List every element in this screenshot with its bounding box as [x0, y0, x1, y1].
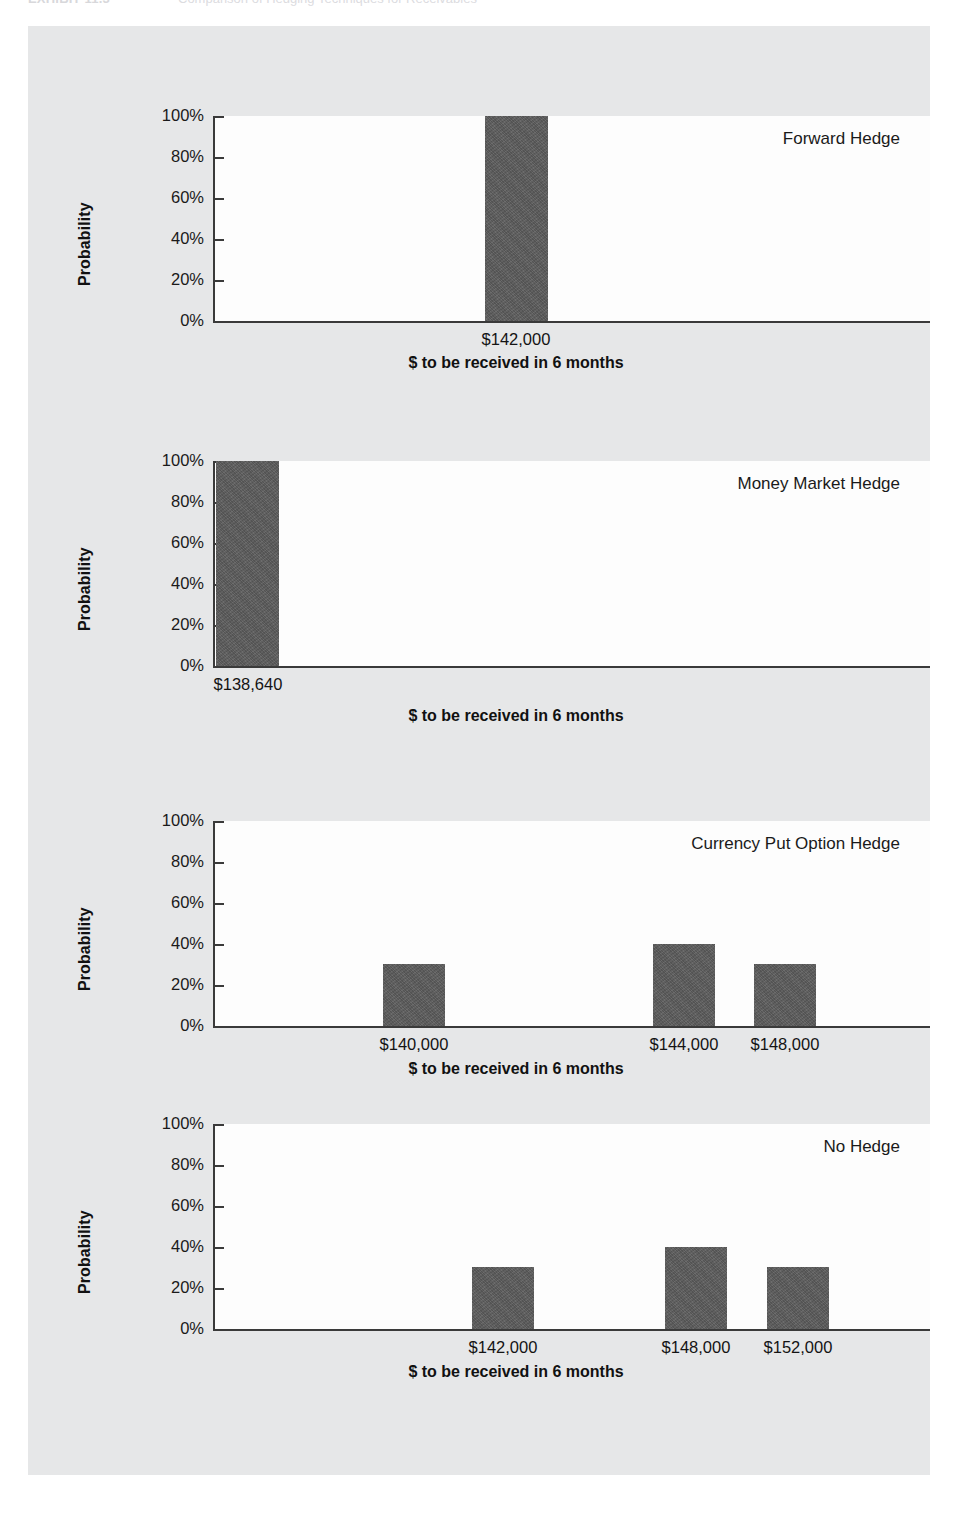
y-tick-label: 100%: [108, 451, 204, 470]
x-axis-line: [213, 1329, 930, 1331]
y-tick-label: 60%: [108, 188, 204, 207]
x-axis-title: $ to be received in 6 months: [366, 1363, 666, 1381]
y-axis-line: [213, 1124, 215, 1331]
y-tick: [215, 321, 224, 323]
y-axis-title: Probability: [76, 202, 94, 286]
y-tick-label: 60%: [108, 893, 204, 912]
y-tick: [215, 280, 224, 282]
y-axis-line: [213, 116, 215, 323]
y-tick: [215, 862, 224, 864]
y-tick-label: 0%: [108, 656, 204, 675]
y-axis-title: Probability: [76, 1210, 94, 1294]
y-tick-label: 0%: [108, 311, 204, 330]
y-tick: [215, 985, 224, 987]
y-tick-label: 40%: [108, 574, 204, 593]
y-tick-label: 0%: [108, 1016, 204, 1035]
y-tick: [215, 1124, 224, 1126]
y-tick-label: 60%: [108, 1196, 204, 1215]
cut-off-header-strip: EXHIBIT 11.3 Comparison of Hedging Techn…: [0, 0, 959, 14]
chart-title: Money Market Hedge: [480, 474, 900, 494]
x-axis-line: [213, 321, 930, 323]
chart-money-market-hedge: 100% 80% 60% 40% 20% 0% Probability Mone…: [28, 441, 930, 741]
y-tick-label: 20%: [108, 975, 204, 994]
y-tick-label: 100%: [108, 811, 204, 830]
chart-currency-put-option-hedge: 100% 80% 60% 40% 20% 0% Probability Curr…: [28, 801, 930, 1101]
chart-title: Currency Put Option Hedge: [480, 834, 900, 854]
x-tick-label: $142,000: [446, 330, 586, 349]
x-tick-label: $148,000: [715, 1035, 855, 1054]
x-axis-title: $ to be received in 6 months: [366, 1060, 666, 1078]
y-tick-label: 40%: [108, 1237, 204, 1256]
bar: [216, 461, 279, 666]
y-tick-label: 20%: [108, 1278, 204, 1297]
exhibit-number-cut: EXHIBIT 11.3: [28, 0, 110, 6]
y-tick-label: 80%: [108, 852, 204, 871]
bar: [653, 944, 715, 1026]
y-tick: [215, 1206, 224, 1208]
bar: [665, 1247, 727, 1329]
y-tick: [215, 116, 224, 118]
x-tick-label: $152,000: [728, 1338, 868, 1357]
y-tick: [215, 944, 224, 946]
y-axis-title: Probability: [76, 547, 94, 631]
x-axis-line: [213, 1026, 930, 1028]
x-axis-line: [213, 666, 930, 668]
bar: [383, 964, 445, 1026]
y-tick: [215, 1026, 224, 1028]
x-tick-label: $142,000: [433, 1338, 573, 1357]
y-tick-label: 60%: [108, 533, 204, 552]
y-tick-label: 100%: [108, 106, 204, 125]
y-tick-label: 20%: [108, 615, 204, 634]
chart-title: No Hedge: [480, 1137, 900, 1157]
x-axis-title: $ to be received in 6 months: [366, 707, 666, 725]
bar: [485, 116, 548, 321]
y-tick-label: 80%: [108, 147, 204, 166]
chart-forward-hedge: 100% 80% 60% 40% 20% 0% Probability Forw…: [28, 96, 930, 386]
y-axis-title: Probability: [76, 907, 94, 991]
x-tick-label: $138,640: [178, 675, 318, 694]
bar: [472, 1267, 534, 1329]
y-tick: [215, 1329, 224, 1331]
y-tick: [215, 666, 224, 668]
y-tick: [215, 1165, 224, 1167]
x-tick-label: $140,000: [344, 1035, 484, 1054]
y-tick: [215, 157, 224, 159]
y-tick: [215, 239, 224, 241]
chart-no-hedge: 100% 80% 60% 40% 20% 0% Probability No H…: [28, 1104, 930, 1414]
exhibit-caption-cut: Comparison of Hedging Techniques for Rec…: [178, 0, 477, 6]
y-tick-label: 0%: [108, 1319, 204, 1338]
y-tick: [215, 821, 224, 823]
y-tick: [215, 198, 224, 200]
y-tick: [215, 903, 224, 905]
y-axis-line: [213, 821, 215, 1028]
x-axis-title: $ to be received in 6 months: [366, 354, 666, 372]
y-tick-label: 80%: [108, 1155, 204, 1174]
y-axis-line: [213, 461, 215, 668]
y-tick-label: 40%: [108, 229, 204, 248]
y-tick: [215, 1247, 224, 1249]
exhibit-panel: 100% 80% 60% 40% 20% 0% Probability Forw…: [28, 26, 930, 1475]
bar: [767, 1267, 829, 1329]
y-tick-label: 20%: [108, 270, 204, 289]
bar: [754, 964, 816, 1026]
y-tick-label: 40%: [108, 934, 204, 953]
y-tick: [215, 1288, 224, 1290]
y-tick-label: 80%: [108, 492, 204, 511]
y-tick-label: 100%: [108, 1114, 204, 1133]
